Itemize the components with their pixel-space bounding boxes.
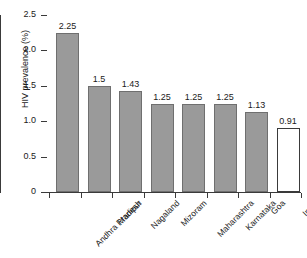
y-tick-mark [41,86,47,87]
x-tick-mark [207,193,208,198]
x-axis-line [47,192,301,193]
x-tick-mark [175,193,176,198]
y-tick-mark [41,192,47,193]
bar-value-label: 1.25 [145,92,180,102]
bar-value-label: 1.43 [113,79,148,89]
bar [119,91,142,192]
x-category-label: Manipur [115,198,144,227]
bar-chart-figure: HIV prevalence (%) 00.51.01.52.02.5 2.25… [0,0,307,258]
y-tick-label: 2.0 [2,44,36,54]
y-tick-label: 2.5 [2,9,36,19]
x-category-label: India [300,198,307,218]
x-tick-mark [112,193,113,198]
bar [182,104,205,193]
bar-value-label: 2.25 [50,21,85,31]
bar [277,128,300,192]
x-tick-mark [144,193,145,198]
x-tick-mark [81,193,82,198]
x-category-label: Mizoram [179,198,209,228]
bar [214,104,237,193]
bar-value-label: 1.13 [239,100,274,110]
bar-value-label: 1.25 [208,92,243,102]
x-tick-mark [238,193,239,198]
y-tick-label: 0 [2,186,36,196]
y-axis-line [0,15,1,193]
y-tick-mark [41,121,47,122]
y-tick-label: 1.5 [2,80,36,90]
bar-value-label: 1.25 [176,92,211,102]
y-tick-label: 1.0 [2,115,36,125]
bar [151,104,174,193]
y-tick-mark [41,50,47,51]
y-tick-mark [41,15,47,16]
y-tick-label: 0.5 [2,151,36,161]
bar-value-label: 0.91 [271,116,306,126]
x-tick-mark [49,193,50,198]
x-category-label: Nagaland [148,198,181,231]
x-tick-mark [301,193,302,198]
bar [88,86,111,192]
bar-value-label: 1.5 [82,74,117,84]
bar [245,112,268,192]
bar [56,33,79,192]
y-tick-mark [41,157,47,158]
